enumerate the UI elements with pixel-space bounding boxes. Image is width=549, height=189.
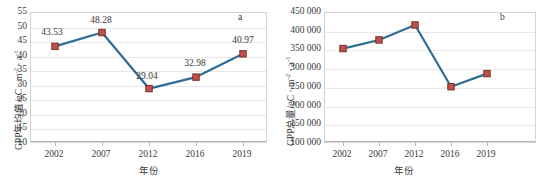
- y-tick-label: 200 000: [278, 101, 321, 111]
- x-tick-label: 2002: [325, 150, 359, 160]
- x-tick-label: 2002: [37, 150, 71, 160]
- data-point-marker[interactable]: [52, 43, 58, 49]
- panel-label-b: b: [500, 12, 505, 22]
- x-tick-label: 2012: [131, 150, 165, 160]
- chart-panel-a: GPP年均值/gC · m-2 · a-1 555045403530252015…: [0, 0, 275, 189]
- y-tick-label: 25: [12, 94, 27, 104]
- y-tick-label: 10: [12, 138, 27, 148]
- x-tick-label: 2019: [225, 150, 259, 160]
- data-point-marker[interactable]: [146, 85, 152, 91]
- y-tick-label: 100 000: [278, 138, 321, 148]
- data-point-marker[interactable]: [240, 51, 246, 57]
- data-point-marker[interactable]: [412, 22, 418, 28]
- series-line: [343, 25, 487, 87]
- y-tick-label: 400 000: [278, 26, 321, 36]
- data-point-marker[interactable]: [340, 45, 346, 51]
- y-tick-label: 55: [12, 7, 27, 17]
- data-point-marker[interactable]: [448, 84, 454, 90]
- data-point-marker[interactable]: [99, 29, 105, 35]
- x-axis-title-b: 年份: [324, 166, 484, 176]
- figure-container: GPP年均值/gC · m-2 · a-1 555045403530252015…: [0, 0, 549, 189]
- x-tick-label: 2007: [84, 150, 118, 160]
- y-tick-label: 300 000: [278, 63, 321, 73]
- y-tick-label: 45: [12, 36, 27, 46]
- y-tick-label: 450 000: [278, 7, 321, 17]
- data-point-marker[interactable]: [484, 70, 490, 76]
- x-tick-label: 2016: [433, 150, 467, 160]
- panel-label-a: a: [238, 12, 242, 22]
- y-tick-label: 35: [12, 65, 27, 75]
- data-point-marker[interactable]: [193, 74, 199, 80]
- y-tick-label: 30: [12, 80, 27, 90]
- y-tick-label: 50: [12, 22, 27, 32]
- y-tick-label: 40: [12, 51, 27, 61]
- data-label: 32.98: [175, 58, 215, 68]
- data-label: 29.04: [127, 71, 167, 81]
- y-tick-label: 250 000: [278, 82, 321, 92]
- data-series-b: [325, 13, 537, 144]
- x-tick-label: 2016: [178, 150, 212, 160]
- data-label: 40.97: [223, 35, 263, 45]
- y-tick-label: 150 000: [278, 119, 321, 129]
- y-tick-label: 20: [12, 109, 27, 119]
- data-label: 48.28: [81, 15, 121, 25]
- x-tick-label: 2007: [361, 150, 395, 160]
- y-tick-label: 350 000: [278, 44, 321, 54]
- chart-panel-b: GPP总量/gC · m-2 · a-1 450 000400 000350 0…: [275, 0, 549, 189]
- x-tick-label: 2019: [469, 150, 503, 160]
- x-tick-label: 2012: [397, 150, 431, 160]
- x-axis-title-a: 年份: [30, 166, 267, 176]
- plot-area-b: [324, 12, 536, 143]
- data-point-marker[interactable]: [376, 37, 382, 43]
- data-label: 43.53: [32, 27, 72, 37]
- y-tick-label: 15: [12, 123, 27, 133]
